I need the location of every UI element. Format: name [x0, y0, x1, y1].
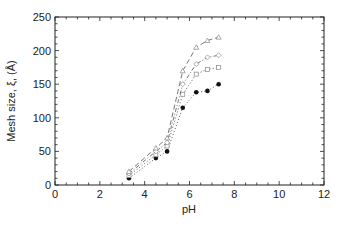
data-point-open-square — [217, 65, 221, 69]
y-tick-label: 150 — [33, 78, 51, 90]
data-point-open-diamond — [216, 53, 221, 58]
data-point-open-triangle — [180, 68, 185, 73]
y-tick-label: 50 — [39, 145, 51, 157]
x-tick-label: 8 — [231, 188, 237, 200]
mesh-size-vs-ph-chart: 024681012 050100150200250 pH Mesh size, … — [0, 0, 343, 225]
data-point-open-diamond — [205, 55, 210, 60]
data-point-open-diamond — [180, 82, 185, 87]
x-tick-label: 2 — [97, 188, 103, 200]
x-tick-label: 10 — [273, 188, 285, 200]
x-tick-label: 0 — [52, 188, 58, 200]
y-tick-label: 250 — [33, 11, 51, 23]
x-axis-label: pH — [182, 203, 196, 215]
data-series — [126, 35, 221, 181]
data-point-open-triangle — [216, 35, 221, 40]
y-axis-label: Mesh size, ξ, (Å) — [5, 60, 17, 141]
data-point-open-triangle — [153, 146, 158, 151]
plot-frame — [55, 17, 324, 185]
data-point-open-square — [205, 67, 209, 71]
series-line — [129, 55, 219, 173]
x-axis-ticks: 024681012 — [52, 17, 330, 200]
data-point-open-square — [194, 72, 198, 76]
x-tick-label: 4 — [142, 188, 148, 200]
series-line — [129, 84, 219, 178]
data-point-filled-circle — [194, 90, 199, 95]
data-point-filled-circle — [180, 105, 185, 110]
data-point-open-diamond — [194, 62, 199, 67]
data-point-filled-circle — [205, 89, 210, 94]
chart-svg: 024681012 050100150200250 pH Mesh size, … — [0, 0, 343, 225]
data-point-open-square — [181, 92, 185, 96]
data-point-filled-circle — [216, 82, 221, 87]
x-tick-label: 6 — [186, 188, 192, 200]
y-tick-label: 200 — [33, 45, 51, 57]
data-point-filled-circle — [165, 149, 170, 154]
x-tick-label: 12 — [318, 188, 330, 200]
series-1-filled-circles — [127, 82, 221, 181]
y-tick-label: 100 — [33, 112, 51, 124]
data-point-open-triangle — [194, 45, 199, 50]
plot-border — [55, 17, 324, 185]
y-tick-label: 0 — [45, 179, 51, 191]
